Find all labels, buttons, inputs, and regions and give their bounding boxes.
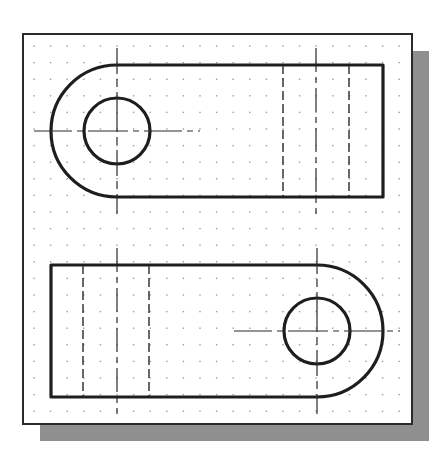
drawing-canvas <box>0 0 441 469</box>
drawing-frame <box>23 34 412 424</box>
frame-border <box>23 34 412 424</box>
